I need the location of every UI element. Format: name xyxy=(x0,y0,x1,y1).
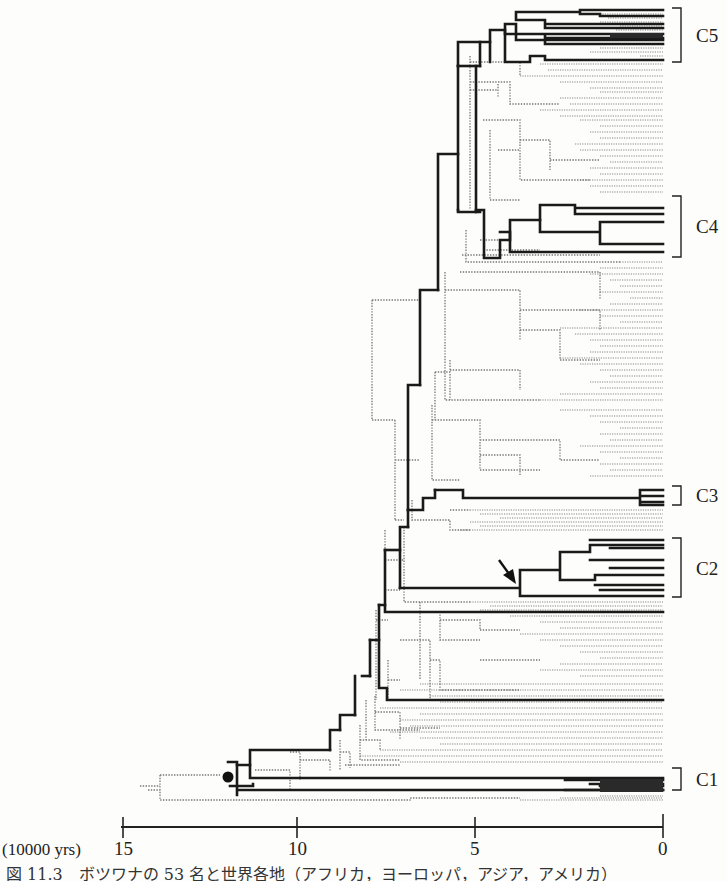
c1-dense-tips xyxy=(600,779,663,792)
bracket-c1 xyxy=(672,768,681,790)
cluster-label-c5: C5 xyxy=(696,25,718,46)
dotted-lineages xyxy=(148,10,663,800)
phylogenetic-tree-figure: C5 C4 C3 C2 C1 (10000 yrs) 15 10 5 0 xyxy=(0,0,727,865)
tick-label-15: 15 xyxy=(114,838,133,859)
cluster-label-c3: C3 xyxy=(696,485,718,506)
time-axis: (10000 yrs) 15 10 5 0 xyxy=(2,814,668,859)
figure-caption: 図 11.3 ボツワナの 53 名と世界各地（アフリカ，ヨーロッパ，アジア，アメ… xyxy=(6,866,617,881)
tick-label-10: 10 xyxy=(288,838,307,859)
bracket-c4 xyxy=(672,196,681,257)
tick-label-0: 0 xyxy=(658,838,668,859)
solid-lineages xyxy=(228,10,663,795)
bracket-c2 xyxy=(672,538,681,597)
axis-unit-label: (10000 yrs) xyxy=(2,840,81,859)
cluster-label-c1: C1 xyxy=(696,769,718,790)
cluster-label-c2: C2 xyxy=(696,558,718,579)
bracket-c5 xyxy=(672,8,681,62)
bracket-c3 xyxy=(672,486,681,505)
c5-dense-tip xyxy=(610,33,663,38)
tick-label-5: 5 xyxy=(470,838,480,859)
root-node-dot xyxy=(223,772,234,783)
arrow-icon xyxy=(499,560,516,584)
cluster-brackets xyxy=(672,8,681,790)
cluster-label-c4: C4 xyxy=(696,216,719,237)
